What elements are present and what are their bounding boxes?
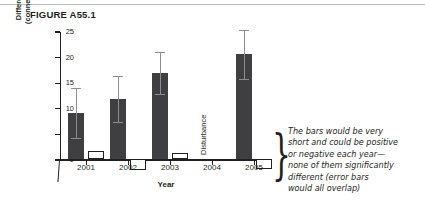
x-tick-label-2005: 2005 — [234, 163, 274, 172]
bar-2003-open — [172, 153, 188, 160]
error-bar-2003-cap-bottom — [155, 94, 165, 95]
disturbance-label: Disturbance — [199, 114, 208, 155]
error-bar-2002-cap-bottom — [113, 122, 123, 123]
error-bar-2002-cap-top — [113, 76, 123, 77]
error-bar-2003-cap-top — [155, 52, 165, 53]
note-line-6: would all overlap) — [288, 183, 422, 194]
y-tick-label-15: 15 — [34, 79, 74, 87]
x-tick-label-2002: 2002 — [108, 163, 148, 172]
y-axis-line — [60, 32, 61, 160]
y-axis-title-line1: Difference in species richness — [14, 0, 23, 20]
error-bar-2005-cap-top — [239, 30, 249, 31]
note-line-2: short and could be positive — [288, 137, 422, 148]
note-line-3: or negative each year— — [288, 149, 422, 160]
y-axis-title-line2: (connected minus unconnected) — [23, 0, 32, 24]
x-tick-label-2004: 2004 — [192, 163, 232, 172]
y-axis-title: Difference in species richness (connecte… — [14, 0, 32, 30]
x-axis-title: Year — [60, 180, 272, 189]
note-line-1: The bars would be very — [288, 126, 422, 137]
error-bar-2005-line — [244, 30, 245, 79]
y-tick-label-20: 20 — [34, 54, 74, 62]
bar-2001-open — [88, 151, 104, 160]
error-bar-2001-cap-top — [71, 88, 81, 89]
y-tick-label-10: 10 — [34, 105, 74, 113]
error-bar-2005-cap-bottom — [239, 79, 249, 80]
note-line-4: none of them significantly — [288, 160, 422, 171]
handwritten-annotation: The bars would be very short and could b… — [288, 126, 422, 194]
x-axis-line — [60, 159, 272, 160]
note-line-5: different (error bars — [288, 172, 422, 183]
y-tick-label-25: 25 — [34, 28, 74, 36]
error-bar-2001-line — [76, 88, 77, 138]
error-bar-2003-line — [160, 52, 161, 95]
x-tick-label-2003: 2003 — [150, 163, 190, 172]
error-bar-2001-cap-bottom — [71, 138, 81, 139]
figure-page: FIGURE A55.1 0 5 10 15 20 25 Difference … — [0, 0, 425, 205]
x-tick-label-2001: 2001 — [66, 163, 106, 172]
error-bar-2002-line — [118, 76, 119, 122]
